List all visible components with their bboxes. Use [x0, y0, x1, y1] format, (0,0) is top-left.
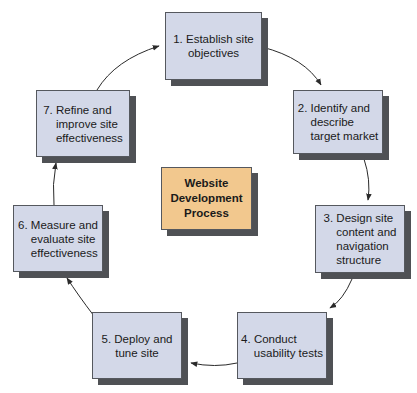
step-1-establish-site-objectives: 1. Establish site objectives [165, 12, 262, 80]
center-website-development-process: Website Development Process [161, 167, 252, 230]
arrow-step5-to-step6 [67, 278, 94, 316]
arrow-step6-to-step7 [53, 163, 56, 205]
step-1-label: 1. Establish site objectives [173, 32, 254, 60]
step-2-identify-target-market: 2. Identify and describe target market [293, 90, 383, 154]
arrow-step4-to-step5 [191, 363, 237, 366]
arrow-step7-to-step1 [97, 46, 159, 90]
step-4-label: 4. Conduct usability tests [241, 332, 323, 360]
arrow-step3-to-step4 [330, 279, 352, 308]
step-4-conduct-usability-tests: 4. Conduct usability tests [237, 312, 327, 379]
arrow-step2-to-step3 [364, 159, 369, 200]
step-7-label: 7. Refine and improve site effectiveness [43, 103, 123, 145]
center-label: Website Development Process [170, 176, 242, 221]
step-7-refine-improve-site: 7. Refine and improve site effectiveness [36, 90, 130, 157]
step-2-label: 2. Identify and describe target market [298, 101, 379, 143]
website-development-cycle-diagram: 1. Establish site objectives 2. Identify… [0, 0, 417, 393]
step-3-design-site-content: 3. Design site content and navigation st… [315, 205, 405, 273]
step-6-label: 6. Measure and evaluate site effectivene… [18, 218, 98, 260]
step-6-measure-evaluate-site: 6. Measure and evaluate site effectivene… [13, 205, 103, 272]
arrow-step1-to-step2 [262, 47, 321, 85]
step-5-deploy-and-tune-site: 5. Deploy and tune site [92, 312, 182, 379]
step-3-label: 3. Design site content and navigation st… [324, 211, 397, 267]
step-5-label: 5. Deploy and tune site [102, 332, 173, 360]
